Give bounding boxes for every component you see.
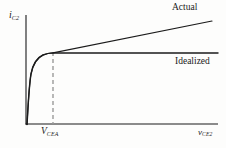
y-axis-label: iC2: [9, 10, 19, 20]
actual-curve: [27, 21, 212, 125]
idealized-curve-label: Idealized: [175, 57, 210, 67]
figure-canvas: [0, 0, 226, 148]
y-axis-label-subscript: C2: [12, 14, 20, 21]
vcea-label-subscript: CEA: [47, 131, 59, 137]
vcea-tick-label: VCEA: [41, 127, 59, 137]
actual-curve-label: Actual: [172, 3, 197, 13]
vcea-label-variable: V: [41, 126, 47, 136]
transistor-characteristic-figure: iC2 vCE2 VCEA Actual Idealized: [0, 0, 226, 148]
x-axis-label-subscript: CE2: [202, 131, 213, 137]
x-axis-label: vCE2: [198, 128, 213, 137]
